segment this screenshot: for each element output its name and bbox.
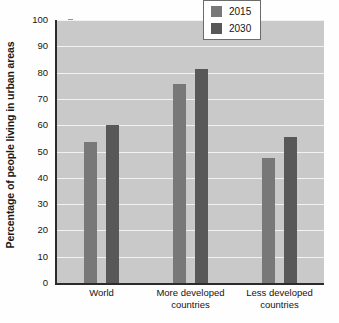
legend-swatch-icon: [211, 6, 222, 17]
bars-layer: [57, 20, 324, 283]
x-axis-tick-label-line: Less developed: [235, 287, 324, 299]
y-axis-tick-label: 100: [20, 15, 48, 25]
y-axis-tick-label: 40: [20, 173, 48, 183]
x-axis-tick-label: World: [57, 287, 146, 299]
legend-label: 2030: [229, 24, 251, 34]
legend-entry[interactable]: 2015: [211, 6, 251, 17]
bar: [195, 69, 208, 283]
legend: 20152030: [203, 0, 261, 40]
bar: [106, 125, 119, 283]
y-axis-tick-label: 80: [20, 68, 48, 78]
y-axis-tick-label: 20: [20, 226, 48, 236]
bar: [284, 137, 297, 283]
legend-label: 2015: [229, 7, 251, 17]
y-axis-tick-label: 0: [20, 278, 48, 288]
x-axis-tick-label: Less developedcountries: [235, 287, 324, 310]
x-axis-tick-label-line: More developed: [146, 287, 235, 299]
bar-chart: Percentage of people living in urban are…: [0, 0, 339, 323]
legend-swatch-icon: [211, 23, 222, 34]
y-axis-tick-label: 30: [20, 199, 48, 209]
bar: [84, 142, 97, 283]
y-axis-tick-labels: 0102030405060708090100: [20, 20, 48, 283]
bar: [262, 158, 275, 283]
y-axis-tick-label: 60: [20, 120, 48, 130]
y-axis-title: Percentage of people living in urban are…: [0, 0, 20, 290]
x-axis-tick-label-line: World: [57, 287, 146, 299]
y-axis-title-text: Percentage of people living in urban are…: [4, 41, 16, 248]
legend-entry[interactable]: 2030: [211, 23, 251, 34]
y-axis-tick-label: 50: [20, 147, 48, 157]
y-axis-tick-label: 90: [20, 42, 48, 52]
x-axis-tick-label-line: countries: [146, 299, 235, 311]
y-axis-tick-label: 10: [20, 252, 48, 262]
x-axis-tick-labels: WorldMore developedcountriesLess develop…: [57, 287, 324, 321]
plot-area: [55, 20, 324, 285]
y-axis-tick-label: 70: [20, 94, 48, 104]
x-axis-tick-label: More developedcountries: [146, 287, 235, 310]
bar: [173, 84, 186, 283]
x-axis-tick-label-line: countries: [235, 299, 324, 311]
